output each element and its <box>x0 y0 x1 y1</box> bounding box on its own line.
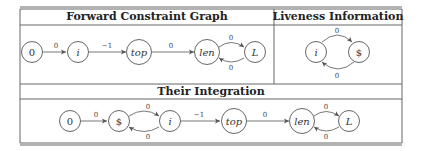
node-i: i <box>68 42 89 63</box>
svg-text:0: 0 <box>29 47 35 58</box>
edge-len-to-L <box>219 43 244 48</box>
node-top: top <box>127 40 152 65</box>
edge-label: 0 <box>146 103 150 111</box>
node-dollar: $ <box>109 111 130 132</box>
integration-graph: 0 0 0 −1 0 0 0 0 $ i top len <box>60 103 360 141</box>
svg-text:len: len <box>199 47 215 58</box>
edge-label: 0 <box>263 111 267 119</box>
edge-label: 0 <box>54 42 58 50</box>
svg-text:len: len <box>294 116 310 127</box>
svg-text:$: $ <box>356 47 362 58</box>
node-0: 0 <box>22 42 43 63</box>
integration-header: Their Integration <box>157 85 264 98</box>
forward-graph: 0 −1 0 0 0 0 i top len L <box>22 34 266 72</box>
liveness-graph: 0 0 i $ <box>306 27 370 80</box>
edge-i-to-dollar <box>322 35 352 42</box>
edge-i-to-dollar <box>129 127 159 132</box>
svg-text:top: top <box>131 47 148 58</box>
svg-text:L: L <box>251 47 259 58</box>
svg-text:top: top <box>226 116 243 127</box>
node-len: len <box>290 109 315 134</box>
svg-text:L: L <box>345 116 353 127</box>
svg-text:0: 0 <box>67 116 73 127</box>
edge-len-to-L <box>314 112 339 117</box>
edge-label: 0 <box>335 72 339 80</box>
edge-label: 0 <box>169 42 173 50</box>
node-dollar: $ <box>349 42 370 63</box>
node-len: len <box>195 40 220 65</box>
node-L: L <box>339 111 360 132</box>
node-i: i <box>306 42 327 63</box>
constraint-graph-figure: Forward Constraint Graph Liveness Inform… <box>0 0 423 151</box>
edge-L-to-len <box>314 127 339 131</box>
node-top: top <box>222 109 247 134</box>
edge-label: 0 <box>324 103 328 111</box>
edge-label: 0 <box>94 111 98 119</box>
edge-label: 0 <box>324 133 328 141</box>
node-L: L <box>245 42 266 63</box>
svg-text:i: i <box>168 116 171 127</box>
edge-dollar-to-i <box>129 111 159 116</box>
edge-label: 0 <box>335 27 339 35</box>
edge-label: −1 <box>194 111 204 119</box>
liveness-header: Liveness Information <box>273 10 404 23</box>
edge-L-to-len <box>219 58 244 62</box>
edge-label: 0 <box>229 64 233 72</box>
edge-label: 0 <box>146 133 150 141</box>
svg-text:$: $ <box>116 116 122 127</box>
node-i: i <box>160 111 181 132</box>
forward-graph-header: Forward Constraint Graph <box>66 10 228 23</box>
edge-label: 0 <box>229 34 233 42</box>
svg-text:i: i <box>314 47 317 58</box>
edge-label: −1 <box>102 42 112 50</box>
node-0: 0 <box>60 111 81 132</box>
svg-text:i: i <box>76 47 79 58</box>
edge-dollar-to-i <box>322 62 354 69</box>
